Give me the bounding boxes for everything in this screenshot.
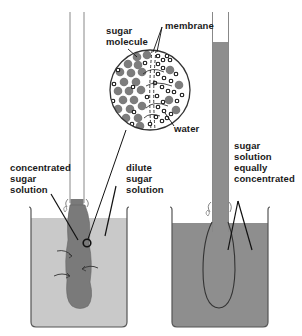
water-label: water <box>174 123 199 134</box>
dilute-label: dilute sugar solution <box>126 162 164 195</box>
equal-concentration-label: sugar solution equally concentrated <box>234 140 295 184</box>
concentrated-label: concentrated sugar solution <box>10 162 71 195</box>
equal-solution-fill <box>172 223 268 327</box>
sugar-molecule-label: sugar molecule <box>106 25 148 47</box>
membrane-label: membrane <box>165 20 214 31</box>
osmosis-diagram: sugar molecule membrane water concentrat… <box>0 0 302 336</box>
concentrated-bag <box>66 205 92 309</box>
right-tube-solution <box>213 42 228 232</box>
